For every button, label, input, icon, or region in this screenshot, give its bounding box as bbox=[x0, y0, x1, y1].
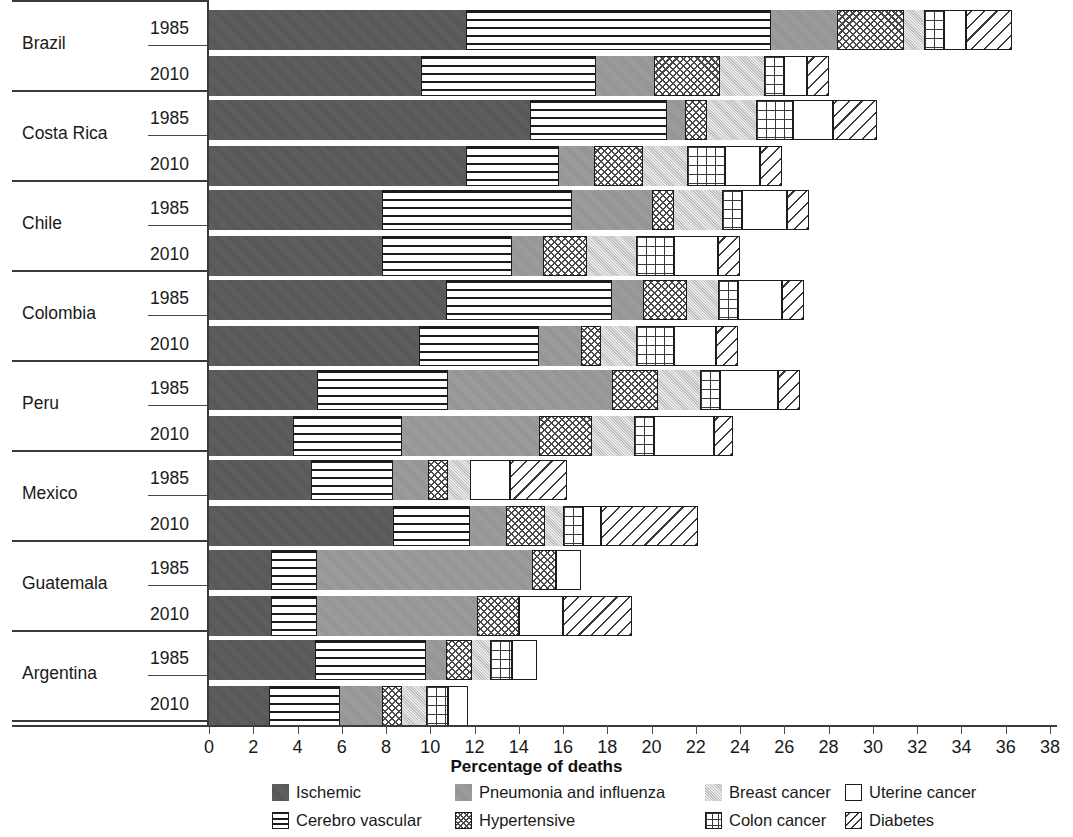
legend-swatch-breast-icon bbox=[705, 784, 722, 801]
legend-item-diabetes[interactable]: Diabetes bbox=[845, 811, 934, 830]
country-divider bbox=[12, 360, 209, 362]
bar-segment-pneumonia bbox=[317, 550, 532, 590]
year-divider bbox=[148, 495, 208, 496]
legend-item-breast[interactable]: Breast cancer bbox=[705, 783, 831, 802]
x-axis: 02468101214161820222426283032343638 bbox=[0, 725, 1073, 726]
x-axis-tick-label: 2 bbox=[233, 737, 273, 758]
year-label: 1985 bbox=[150, 468, 202, 489]
country-label: Brazil bbox=[22, 33, 66, 54]
bar-segment-cerebro bbox=[315, 640, 426, 680]
x-axis-tick-label: 16 bbox=[543, 737, 583, 758]
bar-segment-colon bbox=[764, 56, 784, 96]
x-axis-tick bbox=[430, 725, 431, 734]
bar-segment-pneumonia bbox=[596, 56, 654, 96]
legend-item-cerebro[interactable]: Cerebro vascular bbox=[272, 811, 422, 830]
country-divider bbox=[12, 270, 209, 272]
bar-segment-ischemic bbox=[209, 100, 530, 140]
legend-item-hypertensive[interactable]: Hypertensive bbox=[455, 811, 575, 830]
bar-segment-cerebro bbox=[530, 100, 667, 140]
x-axis-tick-label: 38 bbox=[1030, 737, 1070, 758]
bar-segment-diabetes bbox=[601, 506, 698, 546]
bar-segment-colon bbox=[563, 506, 583, 546]
x-axis-tick bbox=[784, 725, 785, 734]
year-label: 1985 bbox=[150, 378, 202, 399]
country-block: Colombia19852010 bbox=[0, 270, 209, 360]
bar-segment-hypertensive bbox=[382, 686, 402, 726]
bar-segment-uterine bbox=[556, 550, 580, 590]
bar-segment-uterine bbox=[654, 416, 714, 456]
x-axis-tick-label: 4 bbox=[278, 737, 318, 758]
year-label: 1985 bbox=[150, 558, 202, 579]
bar-segment-pneumonia bbox=[340, 686, 382, 726]
x-axis-tick-label: 8 bbox=[366, 737, 406, 758]
bar-segment-hypertensive bbox=[654, 56, 720, 96]
x-axis-tick-label: 28 bbox=[809, 737, 849, 758]
bar-segment-cerebro bbox=[271, 550, 317, 590]
legend-item-pneumonia[interactable]: Pneumonia and influenza bbox=[455, 783, 665, 802]
bar-segment-pneumonia bbox=[771, 10, 837, 50]
bar-segment-uterine bbox=[944, 10, 966, 50]
bar-segment-hypertensive bbox=[477, 596, 519, 636]
bar-segment-colon bbox=[722, 190, 742, 230]
bar-segment-breast bbox=[643, 146, 687, 186]
x-axis-tick bbox=[386, 725, 387, 734]
year-label: 2010 bbox=[150, 244, 202, 265]
bar-segment-pneumonia bbox=[572, 190, 652, 230]
bar-segment-uterine bbox=[448, 686, 468, 726]
x-axis-tick bbox=[829, 725, 830, 734]
country-label: Mexico bbox=[22, 483, 77, 504]
country-block: Mexico19852010 bbox=[0, 450, 209, 540]
legend-item-ischemic[interactable]: Ischemic bbox=[272, 783, 361, 802]
bar-segment-pneumonia bbox=[539, 326, 581, 366]
bar-segment-uterine bbox=[470, 460, 510, 500]
bar-segment-uterine bbox=[519, 596, 563, 636]
x-axis-tick-label: 18 bbox=[587, 737, 627, 758]
x-axis-line bbox=[12, 725, 1057, 727]
bar-segment-uterine bbox=[738, 280, 782, 320]
country-divider bbox=[12, 720, 209, 722]
bar-segment-breast bbox=[707, 100, 756, 140]
year-divider bbox=[148, 315, 208, 316]
bar-segment-ischemic bbox=[209, 280, 446, 320]
bar-segment-breast bbox=[472, 640, 490, 680]
bar-segment-colon bbox=[490, 640, 512, 680]
bar-segment-ischemic bbox=[209, 236, 382, 276]
year-label: 2010 bbox=[150, 604, 202, 625]
bar-segment-cerebro bbox=[446, 280, 612, 320]
bar-segment-pneumonia bbox=[470, 506, 505, 546]
year-label: 2010 bbox=[150, 514, 202, 535]
legend-label: Diabetes bbox=[869, 811, 934, 830]
bar-segment-cerebro bbox=[419, 326, 539, 366]
bar-segment-diabetes bbox=[714, 416, 734, 456]
legend-swatch-diabetes-icon bbox=[845, 812, 862, 829]
x-axis-tick bbox=[696, 725, 697, 734]
bar-segment-diabetes bbox=[787, 190, 809, 230]
bar-segment-diabetes bbox=[778, 370, 800, 410]
bar-segment-ischemic bbox=[209, 146, 466, 186]
x-axis-title: Percentage of deaths bbox=[0, 757, 1073, 777]
x-axis-tick bbox=[342, 725, 343, 734]
bar-segment-hypertensive bbox=[532, 550, 556, 590]
legend-item-uterine[interactable]: Uterine cancer bbox=[845, 783, 976, 802]
country-year-label-column: Brazil19852010Costa Rica19852010Chile198… bbox=[0, 0, 209, 725]
legend-swatch-cerebro-icon bbox=[272, 812, 289, 829]
x-axis-tick-label: 12 bbox=[455, 737, 495, 758]
bar-segment-ischemic bbox=[209, 416, 293, 456]
legend-item-colon[interactable]: Colon cancer bbox=[705, 811, 826, 830]
bar-segment-breast bbox=[587, 236, 636, 276]
year-divider bbox=[148, 405, 208, 406]
bar-segment-ischemic bbox=[209, 640, 315, 680]
x-axis-tick-label: 20 bbox=[632, 737, 672, 758]
year-divider bbox=[148, 135, 208, 136]
bar-segment-cerebro bbox=[466, 146, 559, 186]
country-divider bbox=[12, 90, 209, 92]
bar-segment-breast bbox=[545, 506, 563, 546]
country-label: Colombia bbox=[22, 303, 96, 324]
bar-segment-ischemic bbox=[209, 506, 393, 546]
x-axis-tick bbox=[563, 725, 564, 734]
x-axis-tick bbox=[1050, 725, 1051, 734]
bar-segment-ischemic bbox=[209, 460, 311, 500]
x-axis-tick bbox=[652, 725, 653, 734]
bar-segment-uterine bbox=[512, 640, 536, 680]
bar-segment-colon bbox=[636, 326, 674, 366]
